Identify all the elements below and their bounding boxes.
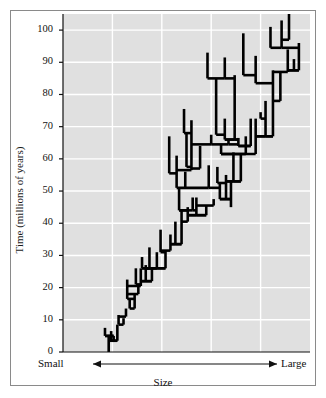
figure-container: Time (millions of years) 010203040506070… <box>0 0 326 398</box>
y-tick-label-50: 50 <box>27 185 53 196</box>
y-tick-label-90: 90 <box>27 56 53 67</box>
y-tick-label-0: 0 <box>27 346 53 357</box>
y-tick-label-40: 40 <box>27 217 53 228</box>
y-tick-label-30: 30 <box>27 249 53 260</box>
x-axis-left-label: Small <box>38 357 64 369</box>
y-tick-label-20: 20 <box>27 282 53 293</box>
y-tick-label-80: 80 <box>27 88 53 99</box>
y-tick-label-10: 10 <box>27 314 53 325</box>
x-axis-title: Size <box>0 376 326 388</box>
x-axis-right-label: Large <box>281 357 306 369</box>
y-tick-label-70: 70 <box>27 121 53 132</box>
size-direction-arrow <box>93 361 277 368</box>
y-tick-label-60: 60 <box>27 153 53 164</box>
y-axis-title: Time (millions of years) <box>13 147 25 254</box>
y-tick-label-100: 100 <box>27 24 53 35</box>
